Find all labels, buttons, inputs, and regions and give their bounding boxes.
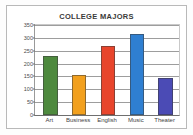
y-tick-mark — [33, 115, 35, 116]
chart-frame: COLLEGE MAJORS 050100150200250300350 Art… — [6, 5, 187, 129]
y-tick-mark — [33, 76, 35, 77]
y-tick-label: 150 — [24, 73, 33, 79]
bar-english[interactable] — [101, 46, 115, 115]
bar-slot — [94, 25, 123, 115]
bars-group — [36, 25, 179, 115]
bar-business[interactable] — [72, 75, 86, 115]
y-tick-label: 250 — [24, 48, 33, 54]
y-tick-mark — [33, 25, 35, 26]
bar-slot — [151, 25, 180, 115]
y-tick-mark — [33, 50, 35, 51]
y-tick-mark — [33, 37, 35, 38]
x-tick-label-music: Music — [128, 117, 144, 123]
chart-page: COLLEGE MAJORS 050100150200250300350 Art… — [0, 0, 193, 135]
y-tick-mark — [33, 102, 35, 103]
bar-music[interactable] — [130, 34, 144, 115]
chart-title: COLLEGE MAJORS — [7, 12, 186, 21]
bar-theater[interactable] — [158, 78, 172, 115]
bar-art[interactable] — [43, 56, 57, 115]
x-tick-label-english: English — [97, 117, 117, 123]
plot-area: 050100150200250300350 ArtBusinessEnglish… — [34, 24, 180, 116]
y-tick-mark — [33, 89, 35, 90]
y-tick-mark — [33, 63, 35, 64]
y-tick-label: 0 — [30, 112, 33, 118]
bar-slot — [65, 25, 94, 115]
y-tick-label: 300 — [24, 35, 33, 41]
y-tick-label: 350 — [24, 22, 33, 28]
x-tick-label-art: Art — [46, 117, 54, 123]
x-tick-label-business: Business — [66, 117, 90, 123]
bar-slot — [122, 25, 151, 115]
x-tick-label-theater: Theater — [154, 117, 175, 123]
y-tick-label: 100 — [24, 86, 33, 92]
y-tick-label: 200 — [24, 61, 33, 67]
bar-slot — [36, 25, 65, 115]
y-tick-label: 50 — [27, 99, 33, 105]
